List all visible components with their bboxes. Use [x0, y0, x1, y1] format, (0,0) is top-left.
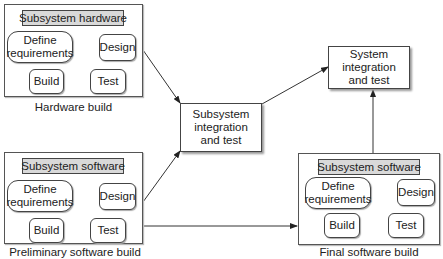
final-software-group-header: Subsystem software [318, 159, 420, 175]
node-label: Design [398, 186, 434, 199]
hardware-define-requirements-node: Define requirements [7, 31, 73, 63]
hardware-test-node: Test [90, 69, 126, 94]
node-label: Design [100, 190, 136, 203]
system-integration-node: System integration and test [328, 46, 410, 89]
node-label: Design [100, 41, 136, 54]
final-define-requirements-node: Define requirements [305, 177, 371, 209]
prelim-test-node: Test [90, 218, 126, 243]
final-build-node: Build [324, 213, 360, 238]
prelim-build-node: Build [29, 218, 64, 243]
node-label: Test [395, 219, 416, 232]
node-label: Test [97, 224, 118, 237]
node-label: Build [329, 219, 355, 232]
final-software-build-caption: Final software build [298, 246, 440, 258]
node-label: Build [34, 75, 60, 88]
final-design-node: Design [397, 179, 435, 206]
node-label: Define requirements [6, 183, 73, 209]
prelim-design-node: Design [99, 183, 136, 210]
node-label: Define requirements [6, 34, 73, 60]
node-label: Subsystem integration and test [187, 108, 255, 147]
hardware-group-header: Subsystem hardware [22, 10, 124, 26]
node-label: Build [34, 224, 60, 237]
final-test-node: Test [388, 213, 424, 238]
node-label: System integration and test [337, 48, 401, 87]
hardware-build-node: Build [29, 69, 64, 94]
prelim-software-group-header: Subsystem software [22, 158, 124, 174]
node-label: Define requirements [304, 180, 371, 206]
hardware-build-caption: Hardware build [4, 101, 143, 113]
node-label: Test [97, 75, 118, 88]
prelim-define-requirements-node: Define requirements [7, 180, 73, 212]
subsystem-integration-node: Subsystem integration and test [180, 103, 262, 152]
preliminary-software-build-caption: Preliminary software build [0, 246, 150, 258]
hardware-design-node: Design [99, 34, 136, 61]
